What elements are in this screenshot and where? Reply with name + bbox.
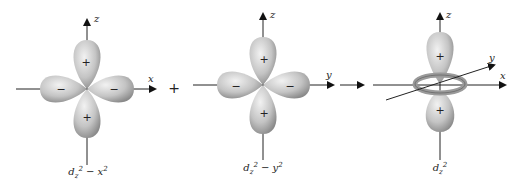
caption-minus: − y [258, 162, 278, 173]
axis-label-z-1: z [94, 13, 99, 24]
caption-sub: z [250, 168, 254, 176]
sign-top-3: + [435, 50, 444, 63]
axis-label-z-2: z [270, 9, 275, 20]
sign-bottom-3: + [435, 104, 444, 117]
dz2-orbital [373, 14, 505, 160]
dz2-y2-orbital [193, 14, 333, 160]
sign-left-1: − [56, 83, 65, 96]
sign-top-2: + [259, 53, 268, 66]
sign-bottom-1: + [82, 111, 91, 124]
caption-dz2: dz2 [433, 161, 448, 176]
caption-dz2-y2: dz2 − y2 [243, 161, 282, 176]
caption-sub: z [75, 172, 79, 180]
sign-bottom-2: + [259, 107, 268, 120]
caption-minus: − x [83, 166, 103, 177]
dz2-x2-orbital [16, 20, 155, 165]
orbital-diagram-canvas [0, 0, 524, 183]
caption-sup2: 2 [278, 161, 282, 169]
caption-sup2: 2 [103, 165, 107, 173]
caption-sup: 2 [443, 161, 447, 169]
sign-right-1: − [109, 83, 118, 96]
sign-left-2: − [231, 80, 240, 93]
sign-top-1: + [81, 56, 90, 69]
plus-operator: + [168, 80, 180, 96]
axis-label-x-3: x [500, 70, 506, 81]
axis-label-x-1: x [148, 73, 154, 84]
axis-label-y-2: y [326, 69, 332, 80]
axis-label-y-3: y [489, 52, 495, 63]
caption-sub: z [439, 168, 443, 176]
caption-dz2-x2: dz2 − x2 [68, 165, 107, 180]
axis-label-z-3: z [446, 9, 451, 20]
sign-right-2: − [285, 80, 294, 93]
